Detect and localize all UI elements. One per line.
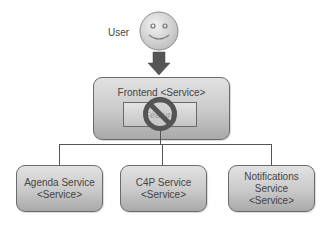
notifications-service-box: Notifications Service <Service>: [228, 165, 315, 212]
agenda-service-type: <Service>: [24, 189, 95, 201]
c4p-service-box: C4P Service <Service>: [120, 165, 207, 212]
notifications-service-name: Notifications Service: [237, 171, 307, 195]
user-label: User: [108, 27, 129, 38]
c4p-service-name: C4P Service: [136, 177, 191, 189]
c4p-service-type: <Service>: [136, 189, 191, 201]
connector-vertical-frontend: [160, 127, 161, 144]
connector-notifications: [271, 144, 272, 165]
agenda-service-name: Agenda Service: [24, 177, 95, 189]
agenda-service-box: Agenda Service <Service>: [16, 165, 103, 212]
connector-agenda: [59, 144, 60, 165]
notifications-service-type: <Service>: [237, 195, 307, 207]
connector-c4p: [162, 144, 163, 165]
smiley-face-icon: [139, 11, 179, 51]
connector-horizontal: [59, 144, 271, 145]
down-arrow-icon: [147, 52, 171, 76]
